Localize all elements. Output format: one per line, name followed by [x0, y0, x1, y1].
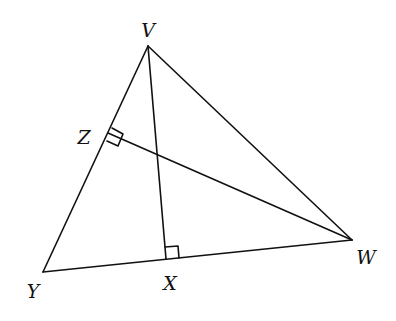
- label-Z: Z: [77, 128, 90, 147]
- right-angle-X: [165, 246, 179, 258]
- side-WV: [148, 46, 352, 240]
- side-VY: [43, 46, 148, 272]
- diagram-svg: [0, 0, 396, 321]
- side-YW: [43, 240, 352, 272]
- triangle-diagram: V Z Y X W: [0, 0, 396, 321]
- altitude-WZ: [108, 133, 352, 240]
- label-V: V: [141, 21, 155, 40]
- label-W: W: [356, 248, 376, 267]
- label-X: X: [163, 274, 177, 293]
- label-Y: Y: [27, 282, 40, 301]
